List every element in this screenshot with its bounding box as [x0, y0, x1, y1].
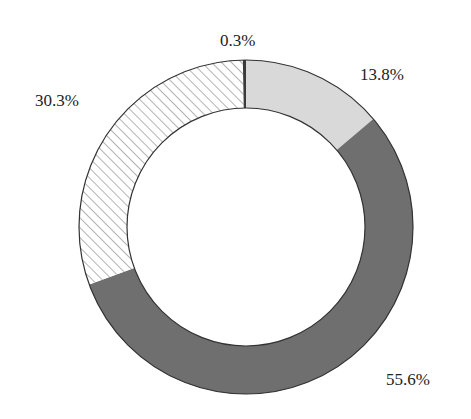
donut-chart-svg — [0, 0, 471, 419]
donut-slices — [79, 60, 413, 394]
inner-ring-outline — [127, 108, 365, 346]
donut-chart: 13.8% 55.6% 30.3% 0.3% — [0, 0, 471, 419]
slice-label-hatched: 30.3% — [35, 92, 79, 109]
donut-slice-2 — [79, 60, 244, 285]
slice-label-sliver: 0.3% — [220, 32, 255, 49]
slice-label-light-gray: 13.8% — [360, 66, 404, 83]
slice-label-dark-gray: 55.6% — [386, 371, 430, 388]
